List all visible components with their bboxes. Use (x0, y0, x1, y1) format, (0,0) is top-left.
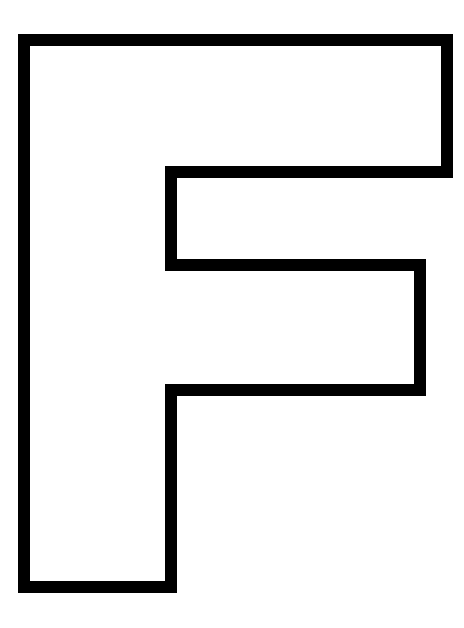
letter-f-canvas: F (0, 0, 464, 628)
letter-f-outline (24, 40, 447, 587)
letter-f-drawing (0, 0, 464, 628)
